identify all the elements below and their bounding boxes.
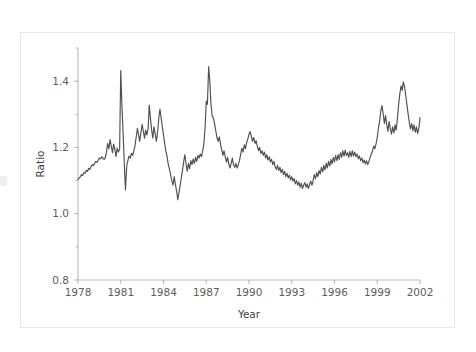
y-axis-ticks: 0.81.01.21.4: [52, 48, 78, 286]
x-tick-label: 1996: [321, 286, 348, 298]
y-axis-title: Ratio: [34, 151, 46, 178]
plot-data-area: [78, 67, 420, 200]
series-line-ratio: [78, 67, 420, 200]
x-axis-ticks: 197819811984198719901993199619992002: [65, 280, 434, 298]
figure-root: 0.81.01.21.4 197819811984198719901993199…: [0, 0, 476, 352]
ratio-vs-year-line-chart: 0.81.01.21.4 197819811984198719901993199…: [0, 0, 476, 352]
y-tick-label: 1.0: [52, 207, 69, 219]
x-tick-label: 1990: [236, 286, 263, 298]
x-axis-title: Year: [237, 308, 261, 320]
x-tick-label: 1978: [65, 286, 92, 298]
x-tick-label: 1984: [150, 286, 177, 298]
x-tick-label: 1993: [278, 286, 305, 298]
y-tick-label: 0.8: [52, 274, 69, 286]
x-tick-label: 2002: [407, 286, 434, 298]
plot-axes: [78, 48, 420, 280]
y-tick-label: 1.2: [52, 141, 69, 153]
y-tick-label: 1.4: [52, 75, 69, 87]
x-tick-label: 1987: [193, 286, 220, 298]
x-tick-label: 1999: [364, 286, 391, 298]
x-tick-label: 1981: [107, 286, 134, 298]
